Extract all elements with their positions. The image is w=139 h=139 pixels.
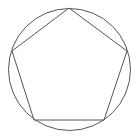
inscribed-pentagon-diagram	[0, 0, 139, 139]
regular-pentagon	[12, 8, 127, 120]
circumscribed-circle	[9, 9, 131, 131]
